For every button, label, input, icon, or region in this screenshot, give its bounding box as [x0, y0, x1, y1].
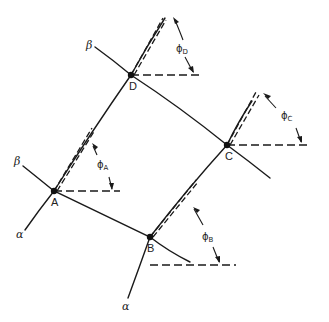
diagram-lines: [0, 0, 329, 322]
alpha-label-bottom: α: [122, 301, 129, 312]
arrowhead-D-top: [173, 17, 179, 24]
node-D-dot: [128, 72, 134, 78]
angle-subscript: D: [183, 48, 188, 56]
tangent-C-2: [230, 95, 259, 145]
angle-label-D: ϕD: [176, 44, 188, 56]
phi-symbol: ϕ: [176, 43, 183, 54]
beta-label-top: β: [86, 40, 92, 51]
angle-arc-C: [265, 96, 276, 108]
arrowhead-C: [297, 136, 302, 143]
node-B-dot: [147, 234, 153, 240]
tangent-B-2: [153, 182, 198, 237]
node-A-dot: [51, 188, 57, 194]
phi-symbol: ϕ: [97, 159, 104, 170]
tangent-D-2: [134, 20, 166, 75]
angle-subscript: C: [288, 115, 293, 123]
node-C-dot: [224, 142, 230, 148]
tangent-D: [131, 18, 163, 75]
angle-subscript: B: [209, 236, 214, 244]
phi-symbol: ϕ: [202, 231, 209, 242]
arrowhead-D: [188, 66, 194, 73]
angle-label-B: ϕB: [202, 232, 213, 244]
node-label-C: C: [225, 151, 233, 162]
node-label-D: D: [129, 81, 137, 92]
arrowhead-B: [215, 256, 220, 263]
tangent-A: [54, 128, 92, 191]
angle-subscript: A: [104, 164, 109, 172]
alpha-line-left: [25, 18, 165, 230]
tangent-A-2: [57, 130, 95, 191]
angle-label-C: ϕC: [281, 111, 293, 123]
beta-line-top: [95, 47, 270, 178]
angle-label-A: ϕA: [97, 160, 108, 172]
node-label-B: B: [147, 243, 154, 254]
tangent-C: [227, 92, 256, 145]
beta-label-left: β: [14, 156, 20, 167]
beta-line-bottom: [23, 166, 190, 262]
characteristic-mesh-diagram: A B C D β β α α ϕA ϕB ϕC ϕD: [0, 0, 329, 322]
phi-symbol: ϕ: [281, 110, 288, 121]
node-label-A: A: [51, 197, 58, 208]
alpha-line-right: [128, 101, 252, 298]
alpha-label-left: α: [16, 229, 23, 240]
